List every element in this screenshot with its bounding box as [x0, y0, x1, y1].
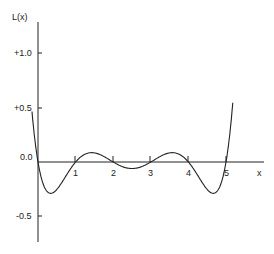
y-tick-label: +1.0 [14, 48, 32, 58]
y-tick-label: -0.5 [16, 211, 32, 221]
data-curve [32, 103, 233, 194]
chart: L(x) +1.0 +0.5 0.0 -0.5 1 2 3 4 5 x [0, 0, 274, 254]
y-tick-label: 0.0 [20, 152, 33, 162]
y-tick-label: +0.5 [14, 103, 32, 113]
x-axis-label: x [257, 168, 262, 178]
y-axis-label: L(x) [12, 12, 28, 22]
x-tick-label: 1 [73, 168, 78, 178]
x-tick-label: 4 [186, 168, 191, 178]
x-tick-label: 2 [111, 168, 116, 178]
x-tick-label: 3 [148, 168, 153, 178]
